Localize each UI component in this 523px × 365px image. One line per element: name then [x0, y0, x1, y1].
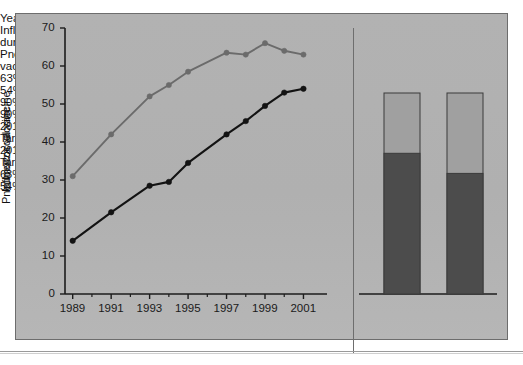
chart-canvas	[15, 13, 508, 340]
figure-container: 010203040506070 198919911993199519971999…	[0, 0, 523, 365]
series-point	[147, 183, 152, 188]
series-point	[243, 52, 248, 57]
series-point	[282, 90, 287, 95]
series-point	[147, 94, 152, 99]
pneumococcal-bar-category-label: Pneumococcal vaccine	[0, 0, 12, 204]
series-point	[224, 132, 229, 137]
series-point	[166, 179, 171, 184]
series-point	[224, 50, 229, 55]
x-axis-tick-label: 1993	[137, 302, 163, 315]
x-axis-tick-label: 1989	[60, 302, 86, 315]
series-point	[282, 48, 287, 53]
series-point	[262, 41, 267, 46]
y-axis-tick-label: 40	[42, 135, 55, 148]
x-axis-tick-label: 1997	[214, 302, 240, 315]
x-axis-tick-label: 1999	[252, 302, 278, 315]
series-point	[70, 238, 75, 243]
pneumococcal-bar-achieved-segment	[447, 173, 483, 294]
series-point	[262, 103, 267, 108]
y-axis-tick-label: 10	[42, 249, 55, 262]
y-axis-tick-label: 0	[48, 287, 54, 300]
series-line-influenza	[73, 43, 304, 176]
y-axis-tick-label: 20	[42, 211, 55, 224]
series-point	[108, 210, 113, 215]
x-axis-tick-label: 1991	[98, 302, 124, 315]
x-axis-tick-label: 1995	[175, 302, 201, 315]
series-point	[243, 118, 248, 123]
y-axis-tick-label: 70	[42, 21, 55, 34]
series-point	[301, 52, 306, 57]
series-point	[166, 82, 171, 87]
influenza-bar-achieved-segment	[384, 153, 420, 294]
bottom-divider-rule	[0, 351, 523, 352]
y-axis-tick-label: 60	[42, 59, 55, 72]
series-point	[301, 86, 306, 91]
series-layer	[70, 41, 306, 244]
y-axis-tick-label: 50	[42, 97, 55, 110]
series-point	[109, 132, 114, 137]
y-axis-tick-label: 30	[42, 173, 55, 186]
series-point	[185, 160, 190, 165]
bottom-divider-rule-secondary	[0, 353, 523, 354]
series-point	[185, 69, 190, 74]
x-axis-tick-label: 2001	[290, 302, 316, 315]
bars-layer	[359, 93, 497, 294]
series-point	[70, 174, 75, 179]
